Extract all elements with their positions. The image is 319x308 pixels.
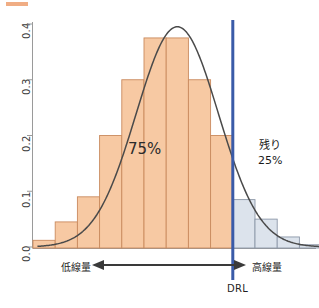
histogram-bar (122, 80, 144, 248)
y-axis-ticks (27, 24, 33, 247)
histogram-bar (166, 38, 188, 248)
remaining-label-line2: 25% (258, 153, 282, 168)
histogram-bar (211, 136, 233, 249)
drl-label: DRL (227, 283, 248, 294)
histogram-bar (77, 197, 99, 248)
percent-below-label: 75% (128, 140, 161, 158)
remaining-label-line1: 残り (258, 138, 282, 153)
histogram-bar (233, 200, 255, 248)
low-dose-label: 低線量 (61, 259, 91, 274)
histogram-bar (100, 136, 122, 249)
high-dose-label: 高線量 (252, 259, 282, 274)
low-dose-arrow (92, 260, 246, 270)
histogram-bar (277, 237, 299, 248)
histogram-bar (188, 80, 210, 248)
remaining-label: 残り 25% (258, 138, 282, 168)
chart-figure: 0.4 0.3 0.2 0.1 0.0 75% 残り 25% 低線量 高線量 D… (0, 0, 319, 308)
histogram-bar (33, 240, 55, 248)
